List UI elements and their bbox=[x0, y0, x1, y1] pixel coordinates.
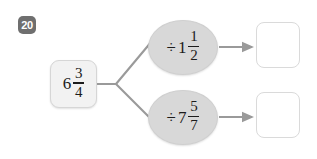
worksheet-canvas: 20 6 3 4 ÷ 1 bbox=[0, 0, 317, 159]
operation-oval-bottom: ÷ 7 5 7 bbox=[148, 90, 218, 145]
operation-expression-bottom: ÷ 7 5 7 bbox=[167, 100, 200, 135]
start-fraction-numerator: 3 bbox=[74, 66, 84, 82]
operation-oval-top: ÷ 1 1 2 bbox=[148, 20, 218, 75]
answer-box-bottom[interactable] bbox=[256, 92, 300, 138]
operand-fraction-bottom: 5 7 bbox=[188, 99, 199, 134]
operand-whole-number-bottom: 7 bbox=[178, 109, 187, 126]
operand-fraction-denominator-top: 2 bbox=[189, 48, 199, 64]
question-number-badge: 20 bbox=[18, 16, 36, 34]
operation-expression-top: ÷ 1 1 2 bbox=[167, 30, 200, 65]
start-value-box: 6 3 4 bbox=[50, 60, 97, 108]
start-fraction-denominator: 4 bbox=[74, 85, 84, 101]
operand-fraction-numerator-top: 1 bbox=[189, 29, 199, 45]
answer-box-top[interactable] bbox=[256, 22, 300, 68]
operand-fraction-numerator-bottom: 5 bbox=[189, 99, 199, 115]
start-whole-number: 6 bbox=[63, 75, 72, 92]
branch-line-bottom bbox=[98, 84, 152, 120]
start-mixed-number: 6 3 4 bbox=[63, 67, 85, 102]
division-operator-icon: ÷ bbox=[167, 39, 176, 56]
branch-line-top bbox=[98, 41, 152, 84]
operand-fraction-top: 1 2 bbox=[188, 29, 199, 64]
start-fraction: 3 4 bbox=[73, 66, 84, 101]
operand-fraction-denominator-bottom: 7 bbox=[189, 118, 199, 134]
operand-whole-number-top: 1 bbox=[178, 39, 187, 56]
division-operator-icon-bottom: ÷ bbox=[167, 109, 176, 126]
